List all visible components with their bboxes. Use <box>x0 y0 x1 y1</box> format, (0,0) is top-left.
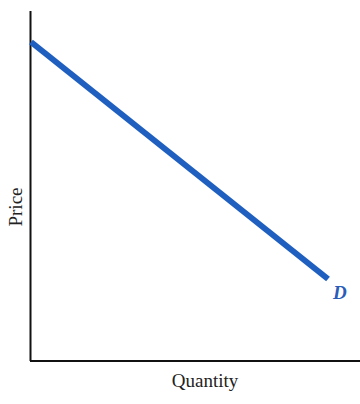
demand-curve-label: D <box>333 282 347 304</box>
chart-canvas <box>0 0 360 404</box>
x-axis-label: Quantity <box>150 370 260 392</box>
demand-curve <box>31 42 328 279</box>
y-axis-label: Price <box>5 177 27 237</box>
